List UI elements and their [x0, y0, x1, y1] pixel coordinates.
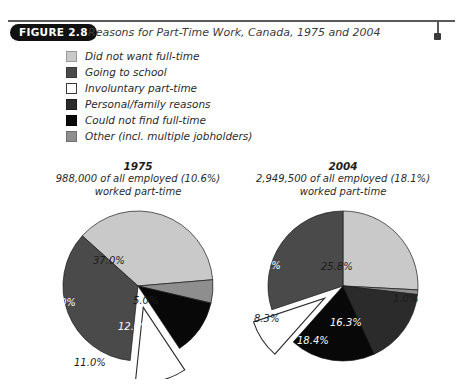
legend-item-label: Other (incl. multiple jobholders) [85, 130, 252, 143]
figure-title: Reasons for Part-Time Work, Canada, 1975… [88, 25, 381, 41]
legend-item-label: Did not want full-time [85, 50, 199, 63]
panel-subtitle-line2: worked part-time [243, 186, 443, 199]
legend-item: Going to school [66, 65, 252, 79]
pie-panel-2004: 2004 2,949,500 of all employed (18.1%) w… [243, 160, 443, 379]
legend-swatch-icon [66, 51, 77, 62]
pie-slice [268, 211, 343, 310]
figure-header: FIGURE 2.8 Reasons for Part-Time Work, C… [0, 12, 467, 34]
legend-item-label: Personal/family reasons [85, 98, 211, 111]
pie-chart-1975: 37.0% 5.0% 12.0% 11.0% 35.0% [38, 204, 238, 379]
legend-swatch-icon [66, 99, 77, 110]
legend-item: Did not want full-time [66, 49, 252, 63]
legend-item-label: Going to school [85, 66, 167, 79]
pie-svg-1975 [38, 204, 238, 379]
legend-item-label: Could not find full-time [85, 114, 206, 127]
figure-container: FIGURE 2.8 Reasons for Part-Time Work, C… [0, 0, 467, 386]
figure-number-badge: FIGURE 2.8 [10, 24, 97, 41]
chart-legend: Did not want full-time Going to school I… [66, 49, 252, 143]
panel-subtitle-line2: worked part-time [38, 186, 238, 199]
legend-item: Could not find full-time [66, 113, 252, 127]
legend-swatch-icon [66, 115, 77, 126]
legend-swatch-icon [66, 67, 77, 78]
legend-item: Involuntary part-time [66, 81, 252, 95]
panel-subtitle-line1: 988,000 of all employed (10.6%) [38, 173, 238, 186]
panel-year-label: 2004 [243, 160, 443, 173]
legend-item-label: Involuntary part-time [85, 82, 197, 95]
header-rule-icon [8, 20, 455, 22]
legend-item: Other (incl. multiple jobholders) [66, 129, 252, 143]
pie-svg-2004 [243, 204, 443, 379]
square-marker-icon [434, 33, 441, 40]
panel-subtitle-line1: 2,949,500 of all employed (18.1%) [243, 173, 443, 186]
panel-year-label: 1975 [38, 160, 238, 173]
legend-item: Personal/family reasons [66, 97, 252, 111]
pie-panel-1975: 1975 988,000 of all employed (10.6%) wor… [38, 160, 238, 379]
pie-chart-2004: 25.8% 1.0% 16.3% 18.4% 8.3% 30.1% [243, 204, 443, 379]
legend-swatch-icon [66, 131, 77, 142]
legend-swatch-icon [66, 83, 77, 94]
pie-slice [343, 211, 418, 290]
